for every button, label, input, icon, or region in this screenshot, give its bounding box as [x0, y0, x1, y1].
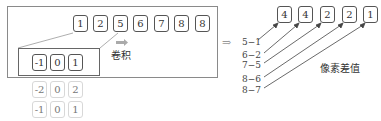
output-cell: 4: [298, 6, 313, 23]
output-cell: 2: [342, 6, 357, 23]
input-cell: 1: [73, 15, 88, 32]
kernel-cell: 2: [68, 81, 83, 98]
output-cell: 1: [363, 6, 378, 23]
convolution-label: 卷积: [111, 47, 131, 62]
difference-label: 8−7: [242, 85, 261, 95]
input-cell: 5: [113, 15, 128, 32]
kernel-cell: 0: [50, 54, 65, 71]
kernel-cell: -2: [32, 81, 47, 98]
output-cell: 2: [320, 6, 335, 23]
kernel-cell: 0: [50, 101, 65, 118]
input-cell: 6: [133, 15, 148, 32]
output-cell: 4: [277, 6, 292, 23]
kernel-cell: 1: [68, 54, 83, 71]
pixel-diff-label: 像素差值: [320, 60, 360, 75]
input-cell: 2: [93, 15, 108, 32]
difference-label: 7−5: [242, 60, 261, 70]
input-cell: 7: [154, 15, 169, 32]
kernel-cell: 0: [50, 81, 65, 98]
input-cell: 8: [195, 15, 210, 32]
kernel-cell: 1: [68, 101, 83, 118]
difference-label: 5−1: [242, 37, 261, 47]
double-arrow-icon: ⇒: [222, 36, 231, 49]
kernel-cell: -1: [32, 54, 47, 71]
input-cell: 8: [174, 15, 189, 32]
kernel-cell: -1: [32, 101, 47, 118]
difference-label: 6−2: [242, 50, 261, 60]
difference-label: 8−6: [242, 74, 261, 84]
